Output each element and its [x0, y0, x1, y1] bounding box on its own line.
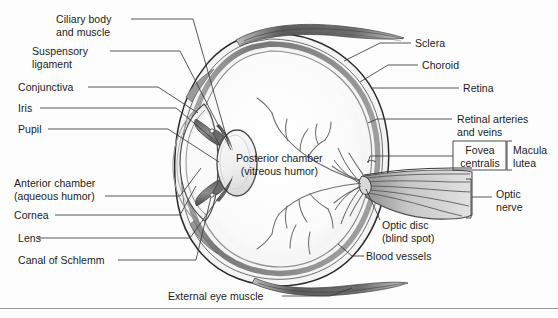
label-blood-vessels: Blood vessels — [366, 250, 431, 263]
eye-anatomy-figure: Ciliary body and muscle Suspensory ligam… — [0, 0, 558, 318]
label-ciliary-body: Ciliary body and muscle — [56, 13, 111, 38]
label-choroid: Choroid — [422, 59, 459, 72]
label-retina: Retina — [463, 82, 494, 95]
label-macula-lutea: Macula lutea — [513, 144, 547, 169]
label-anterior-chamber: Anterior chamber (aqueous humor) — [14, 177, 95, 202]
label-lens: Lens — [18, 232, 41, 245]
label-conjunctiva: Conjunctiva — [18, 81, 73, 94]
leader-conjunctiva — [88, 87, 198, 113]
leader-sclera — [344, 43, 411, 61]
label-canal-of-schlemm: Canal of Schlemm — [18, 254, 105, 267]
label-optic-nerve: Optic nerve — [496, 188, 523, 213]
label-iris: Iris — [18, 102, 32, 115]
label-pupil: Pupil — [18, 123, 42, 136]
label-posterior-chamber: Posterior chamber (vitreous humor) — [236, 152, 323, 177]
label-fovea-centralis: Fovea centralis — [459, 144, 501, 169]
canal-of-schlemm-lower — [210, 193, 214, 197]
label-external-eye-muscle: External eye muscle — [168, 290, 264, 303]
leader-choroid — [360, 65, 418, 82]
label-optic-disc: Optic disc (blind spot) — [382, 219, 435, 244]
label-retinal-vessels: Retinal arteries and veins — [457, 113, 528, 138]
canal-of-schlemm-upper — [210, 129, 214, 133]
label-sclera: Sclera — [415, 37, 445, 50]
macula-lutea-bracket — [507, 141, 512, 170]
optic-nerve-shape — [364, 170, 472, 219]
label-suspensory-ligament: Suspensory ligament — [32, 45, 88, 70]
label-cornea: Cornea — [14, 209, 49, 222]
